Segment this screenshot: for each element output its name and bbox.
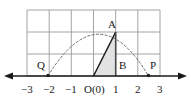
axis-tick--1: −1 — [65, 84, 77, 95]
grid — [27, 10, 160, 76]
axis-tick-3: 3 — [157, 84, 163, 95]
axis-tick-origin: O(0) — [84, 84, 105, 95]
arrow-right-icon — [178, 72, 187, 79]
point-label-a: A — [108, 19, 116, 30]
axis-tick-2: 2 — [135, 84, 141, 95]
point-label-p: P — [150, 60, 156, 71]
arrow-left-icon — [4, 72, 13, 79]
point-dot-p — [147, 74, 150, 77]
axis-tick--3: −3 — [21, 84, 33, 95]
point-label-q: Q — [37, 60, 45, 71]
point-label-b: B — [119, 60, 126, 71]
point-dot-q — [46, 74, 49, 77]
axis-tick-1: 1 — [113, 84, 119, 95]
axis-tick--2: −2 — [43, 84, 55, 95]
